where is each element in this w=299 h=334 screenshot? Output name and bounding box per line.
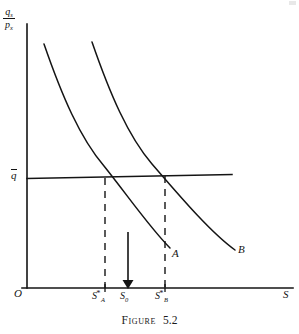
tick-label-s-zero: S0 [120, 291, 128, 301]
scan-artifact [289, 1, 296, 5]
plot-canvas [0, 0, 299, 334]
curve-b [92, 42, 235, 250]
x-axis-label: S [283, 289, 289, 300]
q-bar-reference-line [27, 175, 232, 179]
figure-caption-number: 5.2 [163, 314, 177, 326]
curve-a-label: A [172, 248, 179, 259]
tick-label-s-a-star: S*A [92, 291, 105, 301]
tick-label-s-b-star: S*B [155, 291, 168, 301]
curve-b-label: B [238, 244, 245, 255]
figure-caption-word: Figure [122, 314, 156, 326]
y-axis-label-numerator: qs [3, 7, 15, 19]
figure-caption: Figure5.2 [0, 314, 299, 326]
q-bar-axis-label: q [11, 169, 17, 181]
y-axis-label: qs px [3, 7, 15, 30]
origin-label: O [14, 288, 22, 299]
curve-a [44, 44, 170, 248]
figure-5-2: qs px q O S S*A S0 S*B A B Figure5.2 [0, 0, 299, 334]
y-axis-label-denominator: px [3, 19, 15, 30]
